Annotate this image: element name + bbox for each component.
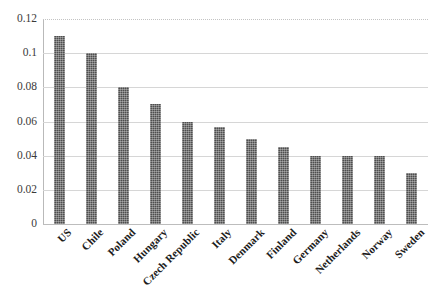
bar — [86, 53, 97, 224]
y-axis-tick-label: 0.1 — [0, 47, 37, 59]
bar — [406, 173, 417, 224]
x-axis-tick-label: Norway — [359, 226, 394, 261]
bar — [310, 156, 321, 224]
x-axis-tick-labels: USChilePolandHungaryCzech RepublicItalyD… — [43, 226, 428, 295]
bar-chart: 00.020.040.060.080.10.12 USChilePolandHu… — [0, 0, 442, 295]
x-axis-tick-label: Chile — [79, 226, 106, 253]
bar — [342, 156, 353, 224]
bar — [278, 147, 289, 224]
x-axis-tick-label: Sweden — [392, 226, 426, 260]
y-axis-tick-label: 0 — [0, 218, 37, 230]
y-axis-tick-label: 0.04 — [0, 150, 37, 162]
bar — [54, 36, 65, 224]
bar — [214, 127, 225, 224]
x-axis-tick-label: US — [55, 226, 74, 245]
bar — [182, 122, 193, 225]
y-axis-tick-label: 0.12 — [0, 13, 37, 25]
y-axis-tick-label: 0.02 — [0, 184, 37, 196]
y-axis-tick-label: 0.06 — [0, 116, 37, 128]
x-axis-tick-label: Czech Republic — [140, 226, 202, 288]
bar — [374, 156, 385, 224]
y-axis-tick-labels: 00.020.040.060.080.10.12 — [0, 0, 37, 295]
gridline — [43, 224, 428, 225]
bar — [150, 104, 161, 224]
bar — [246, 139, 257, 224]
x-axis-tick-label: Italy — [210, 226, 234, 250]
bar — [118, 87, 129, 224]
bars-layer — [43, 19, 428, 224]
y-axis-tick-label: 0.08 — [0, 82, 37, 94]
